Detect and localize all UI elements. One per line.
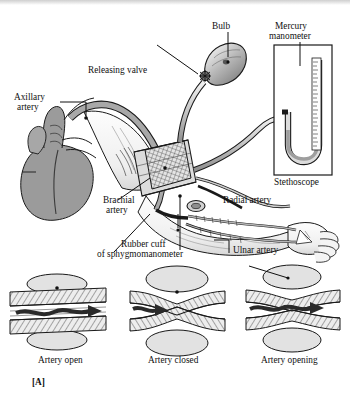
rubber-tubing xyxy=(180,82,282,170)
artery-state-opening xyxy=(246,265,340,352)
label-releasing-valve: Releasing valve xyxy=(88,66,147,76)
mercury-manometer xyxy=(274,45,332,175)
label-axillary-artery-line2: artery xyxy=(17,103,39,113)
artery-state-closed xyxy=(130,266,225,356)
caption-artery-closed: Artery closed xyxy=(148,356,198,366)
caption-artery-open: Artery open xyxy=(38,356,83,366)
panel-label: [A] xyxy=(32,378,45,388)
label-stethoscope: Stethoscope xyxy=(274,178,319,188)
artery-state-open xyxy=(10,274,106,350)
label-ulnar-artery: Ulnar artery xyxy=(233,246,278,256)
label-bulb: Bulb xyxy=(212,22,230,32)
label-mercury-manometer-line2: manometer xyxy=(269,32,311,42)
blood-pressure-diagram xyxy=(0,0,350,394)
label-brachial-artery-line2: artery xyxy=(106,206,128,216)
caption-artery-opening: Artery opening xyxy=(261,356,318,366)
inflation-bulb xyxy=(205,43,247,85)
label-radial-artery: Radial artery xyxy=(223,196,271,206)
heart-illustration xyxy=(21,98,96,220)
label-rubber-cuff-line2: of sphygmomanometer xyxy=(97,250,183,260)
